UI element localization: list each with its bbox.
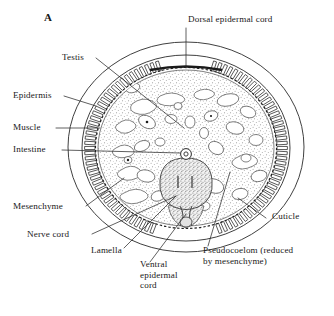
label-epidermis: Epidermis bbox=[13, 90, 52, 101]
label-muscle: Muscle bbox=[13, 122, 41, 133]
label-testis: Testis bbox=[62, 52, 84, 63]
figure-root: A Dorsal epidermal cord Testis Epidermis… bbox=[0, 0, 334, 316]
panel-label: A bbox=[44, 12, 52, 23]
label-cuticle: Cuticle bbox=[272, 211, 299, 222]
label-dorsal-epidermal-cord: Dorsal epidermal cord bbox=[188, 14, 272, 25]
label-ventral-epidermal-cord: Ventral epidermal cord bbox=[140, 259, 178, 291]
label-pseudocoelom: Pseudocoelom (reduced by mesenchyme) bbox=[203, 245, 293, 266]
label-nerve-cord: Nerve cord bbox=[27, 229, 69, 240]
nerve-cord bbox=[180, 217, 192, 227]
label-intestine: Intestine bbox=[13, 144, 46, 155]
intestine bbox=[181, 149, 192, 160]
label-lamella: Lamella bbox=[91, 245, 122, 256]
label-mesenchyme: Mesenchyme bbox=[13, 201, 63, 212]
